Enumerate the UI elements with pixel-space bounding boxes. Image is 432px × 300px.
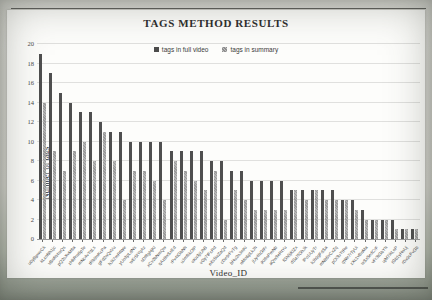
x-axis-tick-mark xyxy=(213,240,214,242)
bar-full-video xyxy=(170,151,173,239)
bar-summary xyxy=(143,171,146,239)
bar-full-video xyxy=(180,151,183,239)
bar-full-video xyxy=(401,229,404,239)
y-axis-tick-label: 14 xyxy=(14,100,34,106)
bar-full-video xyxy=(341,200,344,239)
x-axis-tick-mark xyxy=(254,240,255,242)
bar-group xyxy=(47,44,57,239)
bar-summary xyxy=(83,142,86,240)
x-axis-tick-mark xyxy=(415,240,416,242)
bar-group xyxy=(339,44,349,239)
x-axis-tick-mark xyxy=(123,240,124,242)
y-axis-tick-label: 6 xyxy=(14,178,34,184)
bar-group xyxy=(108,44,118,239)
y-axis-tick-label: 10 xyxy=(14,139,34,145)
y-axis-tick-label: 4 xyxy=(14,197,34,203)
bar-group xyxy=(138,44,148,239)
bar-full-video xyxy=(391,220,394,240)
x-axis-tick-mark xyxy=(294,240,295,242)
y-axis-tick-label: 18 xyxy=(14,61,34,67)
bar-full-video xyxy=(210,161,213,239)
bar-summary xyxy=(375,220,378,240)
y-axis-tick-label: 0 xyxy=(14,236,34,242)
bar-summary xyxy=(365,220,368,240)
y-axis-tick-label: 16 xyxy=(14,80,34,86)
plot-area: Number of tags 02468101214161820 xyxy=(37,44,420,240)
bar-summary xyxy=(103,132,106,239)
bar-summary xyxy=(345,200,348,239)
bar-group xyxy=(410,44,420,239)
bar-groups xyxy=(37,44,420,239)
y-axis-tick-label: 12 xyxy=(14,119,34,125)
x-axis-tick-mark xyxy=(173,240,174,242)
bar-group xyxy=(259,44,269,239)
bar-summary xyxy=(234,190,237,239)
x-axis-tick-mark xyxy=(183,240,184,242)
bar-summary xyxy=(174,161,177,239)
bar-summary xyxy=(93,161,96,239)
bar-full-video xyxy=(371,220,374,240)
bar-summary xyxy=(415,229,418,239)
x-axis-tick-mark xyxy=(42,240,43,242)
x-axis-tick-mark xyxy=(385,240,386,242)
rule-line-top xyxy=(11,8,426,9)
bar-full-video xyxy=(240,171,243,239)
bar-full-video xyxy=(311,190,314,239)
bar-summary xyxy=(133,171,136,239)
bar-summary xyxy=(244,200,247,239)
x-axis-tick-mark xyxy=(405,240,406,242)
x-axis-tick-mark xyxy=(324,240,325,242)
bar-group xyxy=(279,44,289,239)
bar-summary xyxy=(184,171,187,239)
bar-group xyxy=(380,44,390,239)
bar-full-video xyxy=(89,112,92,239)
bar-full-video xyxy=(39,54,42,239)
bar-summary xyxy=(294,190,297,239)
bar-summary xyxy=(113,161,116,239)
bar-full-video xyxy=(381,220,384,240)
x-axis-tick-mark xyxy=(153,240,154,242)
x-axis-tick-mark xyxy=(203,240,204,242)
chart-title: TAGS METHOD RESULTS xyxy=(7,17,425,29)
x-axis-tick-mark xyxy=(72,240,73,242)
x-axis-tick-mark xyxy=(133,240,134,242)
bar-full-video xyxy=(260,181,263,240)
page-background: { "chart_data": { "type": "bar", "title"… xyxy=(0,0,432,300)
bar-full-video xyxy=(411,229,414,239)
bar-group xyxy=(208,44,218,239)
bar-group xyxy=(57,44,67,239)
bar-summary xyxy=(325,200,328,239)
x-axis-tick-mark xyxy=(264,240,265,242)
bar-group xyxy=(97,44,107,239)
bar-summary xyxy=(123,200,126,239)
bar-full-video xyxy=(59,93,62,239)
bar-summary xyxy=(63,171,66,239)
bar-group xyxy=(37,44,47,239)
bar-full-video xyxy=(230,171,233,239)
x-axis-tick-mark xyxy=(395,240,396,242)
bar-full-video xyxy=(331,190,334,239)
bar-full-video xyxy=(351,200,354,239)
bar-group xyxy=(77,44,87,239)
bar-group xyxy=(228,44,238,239)
bar-summary xyxy=(153,181,156,240)
x-axis-tick-mark xyxy=(344,240,345,242)
bar-summary xyxy=(204,190,207,239)
x-axis-tick-mark xyxy=(113,240,114,242)
bar-full-video xyxy=(159,142,162,240)
x-axis-tick-mark xyxy=(284,240,285,242)
bar-group xyxy=(239,44,249,239)
bar-group xyxy=(188,44,198,239)
bar-full-video xyxy=(301,190,304,239)
bar-full-video xyxy=(119,132,122,239)
bar-group xyxy=(87,44,97,239)
bar-group xyxy=(67,44,77,239)
bar-group xyxy=(289,44,299,239)
x-axis-tick-mark xyxy=(193,240,194,242)
bar-full-video xyxy=(190,151,193,239)
bar-full-video xyxy=(79,112,82,239)
bar-full-video xyxy=(69,103,72,240)
bar-group xyxy=(168,44,178,239)
x-axis-tick-mark xyxy=(244,240,245,242)
bar-summary xyxy=(73,151,76,239)
